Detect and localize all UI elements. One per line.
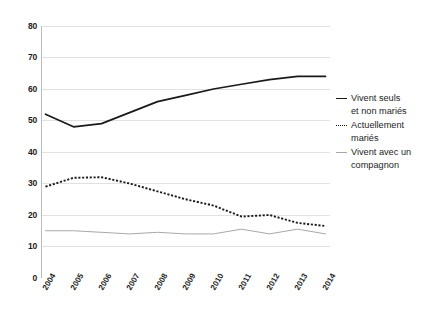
legend-label-1: Actuellement mariés — [351, 119, 440, 145]
y-axis-tick-30: 30 — [3, 179, 37, 188]
plot-svg — [41, 26, 330, 278]
legend-label-2-line2: compagnon — [351, 159, 440, 172]
legend-item-0[interactable]: Vivent seuls et non mariés — [336, 92, 440, 118]
legend-label-1-line1: Actuellement — [351, 120, 404, 130]
gridlines — [41, 26, 330, 278]
y-axis-tick-labels: 01020304050607080 — [0, 26, 37, 278]
y-axis-tick-80: 80 — [3, 22, 37, 31]
series-line-1 — [46, 177, 326, 226]
legend-label-1-line2: mariés — [351, 132, 440, 145]
y-axis-tick-10: 10 — [3, 242, 37, 251]
legend-label-0-line1: Vivent seuls — [351, 93, 400, 103]
chart-legend: Vivent seuls et non mariés Actuellement … — [336, 92, 440, 173]
legend-label-2-line1: Vivent avec un — [351, 147, 411, 157]
y-axis-tick-60: 60 — [3, 85, 37, 94]
legend-swatch-gray-line-icon — [336, 152, 347, 153]
y-axis-tick-20: 20 — [3, 211, 37, 220]
y-axis-tick-40: 40 — [3, 148, 37, 157]
y-axis-tick-70: 70 — [3, 53, 37, 62]
y-axis-tick-50: 50 — [3, 116, 37, 125]
y-axis-tick-0: 0 — [3, 274, 37, 283]
legend-item-1[interactable]: Actuellement mariés — [336, 119, 440, 145]
series-line-2 — [46, 229, 326, 234]
legend-label-2: Vivent avec un compagnon — [351, 146, 440, 172]
x-axis-tick-labels: 2004200520062007200820092010201120122013… — [41, 280, 330, 313]
legend-label-0-line2: et non mariés — [351, 105, 440, 118]
legend-label-0: Vivent seuls et non mariés — [351, 92, 440, 118]
legend-item-2[interactable]: Vivent avec un compagnon — [336, 146, 440, 172]
plot-area — [41, 26, 330, 278]
line-chart: 01020304050607080 2004200520062007200820… — [0, 0, 440, 313]
series-line-0 — [46, 76, 326, 126]
legend-swatch-solid-line-icon — [336, 98, 347, 99]
legend-swatch-dotted-line-icon — [336, 125, 347, 126]
series-lines — [46, 76, 326, 234]
